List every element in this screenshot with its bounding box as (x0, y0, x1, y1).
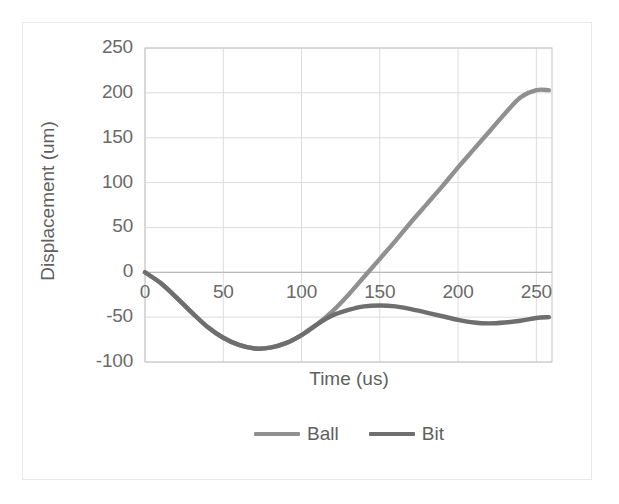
x-tick-label: 0 (115, 281, 175, 303)
y-tick-label: 100 (63, 171, 133, 193)
y-axis-title: Displacement (um) (37, 101, 59, 301)
series-lines (145, 90, 549, 349)
y-tick-label: 0 (63, 260, 133, 282)
x-tick-label: 200 (428, 281, 488, 303)
chart-legend: Ball Bit (145, 424, 553, 443)
legend-swatch-bit (369, 432, 415, 436)
x-tick-label: 100 (272, 281, 332, 303)
plot-area-border (145, 48, 552, 362)
y-tick-label: 250 (63, 36, 133, 58)
y-tick-label: -50 (63, 305, 133, 327)
legend-item-bit[interactable]: Bit (369, 424, 444, 443)
y-tick-label: 50 (63, 215, 133, 237)
gridlines (145, 48, 552, 362)
y-tick-label: 150 (63, 126, 133, 148)
legend-item-ball[interactable]: Ball (254, 424, 339, 443)
x-tick-label: 50 (193, 281, 253, 303)
legend-swatch-ball (254, 432, 300, 436)
y-tick-label: -100 (63, 350, 133, 372)
x-tick-label: 150 (350, 281, 410, 303)
x-tick-label: 250 (506, 281, 566, 303)
x-axis-title: Time (us) (145, 368, 553, 390)
chart-figure: 250200150100500-50-100 050100150200250 D… (0, 0, 619, 504)
legend-label-bit: Bit (422, 424, 444, 443)
y-tick-label: 200 (63, 81, 133, 103)
legend-label-ball: Ball (307, 424, 339, 443)
